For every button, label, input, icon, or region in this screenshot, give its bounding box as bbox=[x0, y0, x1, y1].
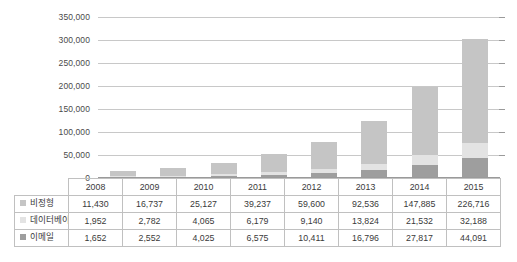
bar-segment[interactable] bbox=[160, 168, 186, 176]
right-axis-tick bbox=[499, 86, 505, 87]
table-header-row: 20082009201020112012201320142015 bbox=[15, 179, 501, 196]
table-cell: 147,885 bbox=[393, 196, 447, 213]
bar-segment[interactable] bbox=[311, 142, 337, 169]
y-axis-labels: 050,000100,000150,000200,000250,000300,0… bbox=[0, 0, 94, 180]
table-cell: 9,140 bbox=[285, 213, 339, 230]
bar-segment[interactable] bbox=[361, 121, 387, 164]
legend-swatch-icon bbox=[20, 217, 26, 223]
stacked-bar[interactable] bbox=[311, 142, 337, 178]
legend-series-name: 이메일 bbox=[30, 233, 54, 243]
table-cell: 16,796 bbox=[339, 230, 393, 247]
y-axis-tick-label: 150,000 bbox=[59, 105, 90, 113]
table-cell: 1,952 bbox=[69, 213, 123, 230]
y-axis-tick-label: 50,000 bbox=[63, 151, 90, 159]
y-axis-tick-label: 100,000 bbox=[59, 128, 90, 136]
table-cell: 21,532 bbox=[393, 213, 447, 230]
table-cell: 4,025 bbox=[177, 230, 231, 247]
table-cell: 226,716 bbox=[447, 196, 501, 213]
stacked-bar[interactable] bbox=[261, 154, 287, 178]
right-axis-tick bbox=[499, 17, 505, 18]
table-cell: 4,065 bbox=[177, 213, 231, 230]
data-table: 20082009201020112012201320142015 비정형11,4… bbox=[14, 178, 501, 247]
table-corner-cell bbox=[15, 179, 69, 196]
bar-slot bbox=[199, 17, 249, 178]
stacked-bar[interactable] bbox=[211, 163, 237, 178]
table-row-label: 데이터베이스 bbox=[15, 213, 69, 230]
table-row: 데이터베이스1,9522,7824,0656,1799,14013,82421,… bbox=[15, 213, 501, 230]
legend-swatch-icon bbox=[20, 200, 26, 206]
legend-swatch-icon bbox=[20, 234, 26, 240]
chart-figure: 050,000100,000150,000200,000250,000300,0… bbox=[0, 0, 517, 262]
right-axis-tick bbox=[499, 40, 505, 41]
right-axis-tick bbox=[499, 109, 505, 110]
table-cell: 92,536 bbox=[339, 196, 393, 213]
y-axis-tick-label: 350,000 bbox=[59, 13, 90, 21]
legend-series-name: 데이터베이스 bbox=[30, 216, 69, 226]
table-column-header: 2009 bbox=[123, 179, 177, 196]
table-row-label: 이메일 bbox=[15, 230, 69, 247]
table-cell: 6,179 bbox=[231, 213, 285, 230]
y-axis-tick-label: 200,000 bbox=[59, 82, 90, 90]
table-row-label: 비정형 bbox=[15, 196, 69, 213]
table-cell: 27,817 bbox=[393, 230, 447, 247]
bar-slot bbox=[299, 17, 349, 178]
table-cell: 13,824 bbox=[339, 213, 393, 230]
table-cell: 2,782 bbox=[123, 213, 177, 230]
bar-slot bbox=[400, 17, 450, 178]
right-axis-line bbox=[499, 17, 500, 178]
y-axis-tick-label: 300,000 bbox=[59, 36, 90, 44]
bar-segment[interactable] bbox=[211, 163, 237, 175]
table-body: 비정형11,43016,73725,12739,23759,60092,5361… bbox=[15, 196, 501, 247]
table-cell: 25,127 bbox=[177, 196, 231, 213]
legend-series-name: 비정형 bbox=[30, 199, 54, 209]
table-cell: 2,552 bbox=[123, 230, 177, 247]
table-cell: 6,575 bbox=[231, 230, 285, 247]
chart-plot-region: 050,000100,000150,000200,000250,000300,0… bbox=[0, 0, 517, 180]
bar-segment[interactable] bbox=[211, 174, 237, 176]
table-cell: 32,188 bbox=[447, 213, 501, 230]
table-column-header: 2012 bbox=[285, 179, 339, 196]
table-column-header: 2013 bbox=[339, 179, 393, 196]
right-axis-tick bbox=[499, 155, 505, 156]
bar-segment[interactable] bbox=[261, 154, 287, 172]
bar-slot bbox=[98, 17, 148, 178]
bar-segment[interactable] bbox=[261, 172, 287, 175]
bar-series-container bbox=[98, 17, 500, 178]
table-column-header: 2010 bbox=[177, 179, 231, 196]
bar-segment[interactable] bbox=[361, 164, 387, 170]
table-cell: 39,237 bbox=[231, 196, 285, 213]
bar-slot bbox=[148, 17, 198, 178]
table-row: 비정형11,43016,73725,12739,23759,60092,5361… bbox=[15, 196, 501, 213]
table-cell: 1,652 bbox=[69, 230, 123, 247]
y-axis-tick-label: 250,000 bbox=[59, 59, 90, 67]
stacked-bar[interactable] bbox=[462, 39, 488, 178]
table-row: 이메일1,6522,5524,0256,57510,41116,79627,81… bbox=[15, 230, 501, 247]
bar-segment[interactable] bbox=[412, 87, 438, 155]
stacked-bar[interactable] bbox=[361, 121, 387, 178]
bar-segment[interactable] bbox=[311, 169, 337, 173]
stacked-bar[interactable] bbox=[412, 87, 438, 178]
bar-segment[interactable] bbox=[412, 155, 438, 165]
table-cell: 11,430 bbox=[69, 196, 123, 213]
right-axis-tick bbox=[499, 132, 505, 133]
table-column-header: 2011 bbox=[231, 179, 285, 196]
table-cell: 44,091 bbox=[447, 230, 501, 247]
bar-slot bbox=[450, 17, 500, 178]
table-cell: 59,600 bbox=[285, 196, 339, 213]
bar-segment[interactable] bbox=[462, 158, 488, 178]
table-cell: 16,737 bbox=[123, 196, 177, 213]
table-column-header: 2008 bbox=[69, 179, 123, 196]
bar-segment[interactable] bbox=[462, 143, 488, 158]
bar-segment[interactable] bbox=[462, 39, 488, 143]
table-column-header: 2015 bbox=[447, 179, 501, 196]
bar-slot bbox=[349, 17, 399, 178]
bar-segment[interactable] bbox=[110, 171, 136, 176]
bar-slot bbox=[249, 17, 299, 178]
table-column-header: 2014 bbox=[393, 179, 447, 196]
plot-area bbox=[98, 17, 500, 178]
right-axis-tick bbox=[499, 63, 505, 64]
table-header: 20082009201020112012201320142015 bbox=[15, 179, 501, 196]
table-cell: 10,411 bbox=[285, 230, 339, 247]
